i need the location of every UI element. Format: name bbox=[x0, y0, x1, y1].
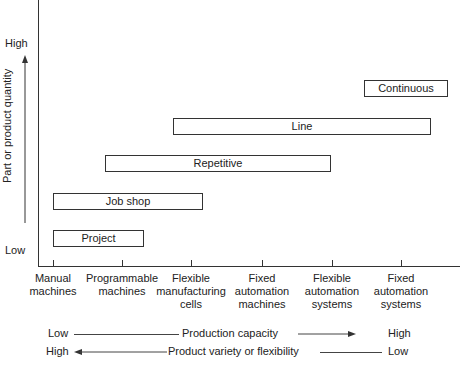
x-label-line: machines bbox=[13, 285, 93, 298]
bar-project: Project bbox=[53, 230, 144, 247]
right-arrow-icon bbox=[298, 330, 356, 338]
x-tick bbox=[262, 260, 263, 266]
x-label-flexible-manufacturing-cells: Flexible manufacturing cells bbox=[151, 272, 231, 311]
y-label-high: High bbox=[5, 37, 28, 49]
variety-low-label: Low bbox=[388, 345, 408, 358]
x-label-programmable-machines: Programmable machines bbox=[82, 272, 162, 298]
bar-line: Line bbox=[173, 118, 431, 135]
x-label-line: automation bbox=[292, 285, 372, 298]
x-tick bbox=[332, 260, 333, 266]
capacity-title: Production capacity bbox=[182, 327, 278, 340]
x-label-line: automation bbox=[222, 285, 302, 298]
x-label-line: Programmable bbox=[82, 272, 162, 285]
x-label-line: Flexible bbox=[292, 272, 372, 285]
x-label-line: Fixed bbox=[222, 272, 302, 285]
x-label-line: cells bbox=[151, 298, 231, 311]
x-tick bbox=[401, 260, 402, 266]
x-tick bbox=[122, 260, 123, 266]
variety-high-label: High bbox=[46, 345, 69, 358]
x-label-line: Flexible bbox=[151, 272, 231, 285]
bar-continuous: Continuous bbox=[364, 80, 448, 97]
y-axis-line bbox=[38, 0, 39, 267]
x-label-fixed-automation-systems: Fixed automation systems bbox=[361, 272, 441, 311]
left-arrow-icon bbox=[74, 348, 167, 356]
x-axis-line bbox=[38, 266, 460, 267]
up-arrow-icon bbox=[21, 55, 29, 225]
x-label-manual-machines: Manual machines bbox=[13, 272, 93, 298]
x-label-line: automation bbox=[361, 285, 441, 298]
y-label-low: Low bbox=[5, 244, 25, 256]
y-axis-title: Part or product quantity bbox=[1, 73, 13, 183]
x-label-line: systems bbox=[361, 298, 441, 311]
capacity-low-label: Low bbox=[48, 327, 68, 340]
bar-job-shop: Job shop bbox=[53, 193, 203, 210]
x-label-flexible-automation-systems: Flexible automation systems bbox=[292, 272, 372, 311]
x-label-line: Fixed bbox=[361, 272, 441, 285]
bar-repetitive: Repetitive bbox=[105, 155, 331, 172]
x-label-line: machines bbox=[222, 298, 302, 311]
capacity-line-left bbox=[74, 334, 179, 335]
x-label-line: systems bbox=[292, 298, 372, 311]
capacity-high-label: High bbox=[388, 327, 411, 340]
variety-title: Product variety or flexibility bbox=[168, 345, 299, 358]
x-tick bbox=[191, 260, 192, 266]
x-label-line: Manual bbox=[13, 272, 93, 285]
x-label-fixed-automation-machines: Fixed automation machines bbox=[222, 272, 302, 311]
x-tick bbox=[53, 260, 54, 266]
x-label-line: machines bbox=[82, 285, 162, 298]
x-label-line: manufacturing bbox=[151, 285, 231, 298]
variety-line-right bbox=[320, 352, 382, 353]
